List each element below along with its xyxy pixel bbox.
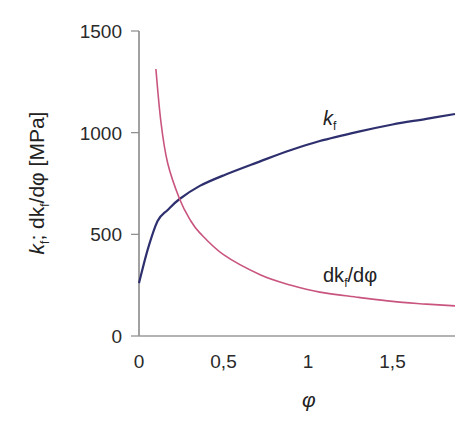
x-tick-label: 0,5 (210, 351, 236, 372)
dkf-dphi-curve (156, 69, 455, 306)
chart: 050010001500 00,511,5 kf dkf/dφ φ kf; dk… (0, 0, 469, 439)
x-axis-title: φ (302, 388, 316, 411)
x-axis-ticks: 00,511,5 (134, 351, 406, 372)
y-tick-label: 1500 (80, 21, 122, 42)
y-tick-label: 500 (90, 224, 122, 245)
y-tick-label: 1000 (80, 123, 122, 144)
x-tick-label: 1,5 (379, 351, 405, 372)
y-axis-ticks: 050010001500 (80, 21, 139, 347)
y-axis-title: kf; dkf/dφ [MPa] (25, 112, 52, 255)
x-tick-label: 0 (134, 351, 145, 372)
y-tick-label: 0 (111, 326, 122, 347)
dkf-dphi-series-label: dkf/dφ (323, 264, 377, 290)
x-tick-label: 1 (303, 351, 314, 372)
kf-series-label: kf (323, 107, 337, 133)
kf-curve (139, 114, 455, 283)
